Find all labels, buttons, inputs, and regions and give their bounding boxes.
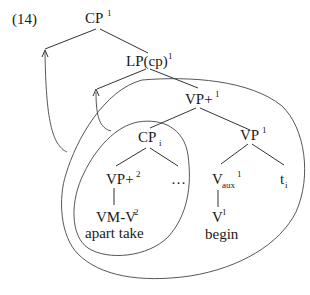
- node-v-1-sup: 1: [222, 207, 227, 217]
- node-cp-i: CP i: [138, 129, 162, 148]
- edge-cp-lp: [100, 29, 148, 53]
- node-v-aux-sub: aux: [222, 180, 235, 190]
- syntax-tree-diagram: (14) CP 1 LP(cp) 1 VP+ 1 CP i VP 1 VP+ 2: [0, 0, 310, 295]
- node-trace-sub: i: [285, 180, 288, 190]
- node-vp-plus-1-label: VP+: [185, 91, 213, 107]
- node-lp-sup: 1: [168, 51, 173, 61]
- node-vm-v: VM-V 2: [96, 207, 139, 225]
- node-vp-plus-1-sup: 1: [215, 89, 220, 99]
- node-vp-1-sup: 1: [262, 125, 267, 135]
- gloss-apart-take: apart take: [85, 225, 144, 241]
- node-vp-plus-2-sup: 2: [136, 169, 141, 179]
- node-v-aux-sup: 1: [237, 169, 242, 179]
- node-vm-v-sup: 2: [134, 207, 139, 217]
- example-number: (14): [12, 11, 37, 28]
- node-vp-plus-1: VP+ 1: [185, 89, 220, 107]
- movement-path-outer: [45, 52, 67, 152]
- edge-cpi-ellipsis: [150, 148, 178, 166]
- node-lp: LP(cp) 1: [126, 51, 173, 70]
- node-lp-label: LP(cp): [126, 53, 168, 70]
- node-cp-root: CP 1: [85, 8, 112, 26]
- edge-vpplus-cpi: [150, 108, 196, 128]
- edge-cp-left: [45, 29, 96, 49]
- node-ellipsis: …: [171, 171, 186, 187]
- node-cp-root-sup: 1: [107, 8, 112, 18]
- edge-lp-left: [97, 69, 146, 89]
- node-cp-root-label: CP: [85, 10, 103, 26]
- node-v-aux: V aux 1: [212, 169, 242, 190]
- node-vp-plus-2-label: VP+: [106, 171, 134, 187]
- gloss-begin: begin: [205, 226, 239, 242]
- edge-cpi-vpplus2: [116, 148, 146, 166]
- node-cp-i-label: CP: [138, 129, 156, 145]
- edge-vp1-trace: [252, 144, 284, 165]
- node-trace: t i: [280, 171, 288, 190]
- node-vm-v-label: VM-V: [96, 209, 136, 225]
- node-vp-1: VP 1: [240, 125, 267, 143]
- node-vp-1-label: VP: [240, 127, 259, 143]
- node-vp-plus-2: VP+ 2: [106, 169, 141, 187]
- edge-vp1-vaux: [221, 144, 248, 164]
- node-cp-i-sub: i: [159, 138, 162, 148]
- node-v-1: V 1: [212, 207, 227, 225]
